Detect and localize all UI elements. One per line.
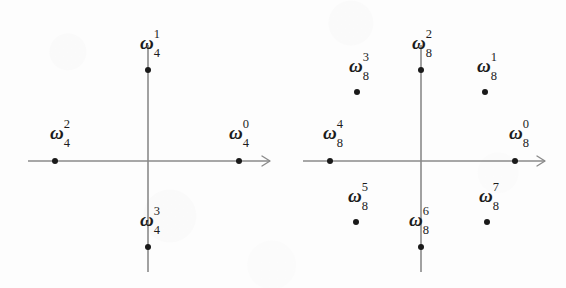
data-point-w8_5	[353, 219, 359, 225]
script-stack: 08	[523, 123, 529, 148]
subscript-order: 8	[363, 69, 369, 82]
superscript-exponent: 6	[423, 205, 429, 218]
point-label-w8_3: ω38	[349, 56, 369, 81]
point-label-w8_0: ω08	[509, 123, 529, 148]
point-label-w4_0: ω04	[229, 123, 249, 148]
subscript-order: 8	[491, 69, 497, 82]
omega-glyph: ω	[479, 185, 493, 206]
data-point-w8_3	[354, 89, 360, 95]
superscript-exponent: 2	[426, 28, 432, 41]
data-point-w8_7	[484, 219, 490, 225]
omega-glyph: ω	[412, 32, 426, 53]
point-label-w4_1: ω14	[140, 33, 160, 58]
superscript-exponent: 0	[523, 118, 529, 131]
data-point-w8_0	[512, 158, 518, 164]
point-label-w8_2: ω28	[412, 33, 432, 58]
omega-glyph: ω	[140, 209, 154, 230]
point-label-w4_2: ω24	[50, 123, 70, 148]
data-point-w8_4	[327, 158, 333, 164]
points-and-labels-layer: ω04ω14ω24ω34ω08ω18ω28ω38ω48ω58ω68ω78	[0, 0, 566, 288]
point-label-w4_3: ω34	[140, 210, 160, 235]
data-point-w8_2	[418, 67, 424, 73]
script-stack: 68	[423, 210, 429, 235]
script-stack: 58	[362, 186, 368, 211]
omega-glyph: ω	[323, 122, 337, 143]
subscript-order: 8	[337, 136, 343, 149]
omega-glyph: ω	[509, 122, 523, 143]
superscript-exponent: 2	[64, 118, 70, 131]
data-point-w4_1	[145, 67, 151, 73]
data-point-w4_3	[145, 244, 151, 250]
script-stack: 18	[491, 56, 497, 81]
data-point-w4_0	[236, 158, 242, 164]
point-label-w8_7: ω78	[479, 186, 499, 211]
script-stack: 78	[493, 186, 499, 211]
point-label-w8_4: ω48	[323, 123, 343, 148]
omega-glyph: ω	[348, 185, 362, 206]
data-point-w8_1	[482, 89, 488, 95]
omega-glyph: ω	[50, 122, 64, 143]
subscript-order: 4	[243, 136, 249, 149]
subscript-order: 4	[64, 136, 70, 149]
data-point-w4_2	[52, 158, 58, 164]
script-stack: 48	[337, 123, 343, 148]
point-label-w8_1: ω18	[477, 56, 497, 81]
subscript-order: 8	[523, 136, 529, 149]
script-stack: 28	[426, 33, 432, 58]
omega-glyph: ω	[229, 122, 243, 143]
point-label-w8_6: ω68	[409, 210, 429, 235]
subscript-order: 4	[154, 46, 160, 59]
script-stack: 04	[243, 123, 249, 148]
omega-glyph: ω	[477, 55, 491, 76]
script-stack: 24	[64, 123, 70, 148]
omega-glyph: ω	[349, 55, 363, 76]
subscript-order: 4	[154, 223, 160, 236]
script-stack: 14	[154, 33, 160, 58]
point-label-w8_5: ω58	[348, 186, 368, 211]
superscript-exponent: 0	[243, 118, 249, 131]
script-stack: 34	[154, 210, 160, 235]
superscript-exponent: 7	[493, 181, 499, 194]
omega-glyph: ω	[140, 32, 154, 53]
superscript-exponent: 3	[154, 205, 160, 218]
superscript-exponent: 1	[154, 28, 160, 41]
superscript-exponent: 1	[491, 51, 497, 64]
subscript-order: 8	[426, 46, 432, 59]
omega-glyph: ω	[409, 209, 423, 230]
superscript-exponent: 4	[337, 118, 343, 131]
roots-of-unity-figure: ω04ω14ω24ω34ω08ω18ω28ω38ω48ω58ω68ω78	[0, 0, 566, 288]
script-stack: 38	[363, 56, 369, 81]
data-point-w8_6	[418, 244, 424, 250]
subscript-order: 8	[362, 199, 368, 212]
subscript-order: 8	[423, 223, 429, 236]
superscript-exponent: 3	[363, 51, 369, 64]
superscript-exponent: 5	[362, 181, 368, 194]
subscript-order: 8	[493, 199, 499, 212]
